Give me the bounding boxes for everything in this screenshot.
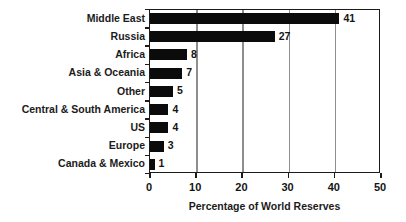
bar	[150, 104, 168, 115]
category-label: Canada & Mexico	[0, 157, 145, 170]
bar-row: 3	[150, 138, 379, 156]
bar	[150, 31, 275, 42]
bar-value-label: 7	[186, 66, 192, 79]
category-label: Other	[0, 85, 145, 98]
bar	[150, 141, 164, 152]
bar-value-label: 1	[159, 157, 165, 170]
bar	[150, 122, 168, 133]
category-label: Africa	[0, 48, 145, 61]
category-tick	[145, 82, 150, 83]
category-label: Russia	[0, 30, 145, 43]
x-axis-tick-10	[195, 173, 197, 178]
bar	[150, 49, 187, 60]
bar-row: 27	[150, 28, 379, 46]
bar-row: 4	[150, 101, 379, 119]
x-axis-tick-label: 50	[365, 180, 395, 194]
bar	[150, 13, 339, 24]
x-axis-tick-label: 0	[134, 180, 164, 194]
category-label: Asia & Oceania	[0, 66, 145, 79]
bar-row: 4	[150, 119, 379, 137]
category-tick	[145, 9, 150, 10]
category-label: Central & South America	[0, 103, 145, 116]
category-label: Middle East	[0, 12, 145, 25]
bar-value-label: 4	[172, 121, 178, 134]
bar-row: 8	[150, 46, 379, 64]
bar-value-label: 4	[172, 103, 178, 116]
bar	[150, 159, 155, 170]
x-axis-tick-50	[380, 173, 382, 178]
x-axis-tick-label: 20	[226, 180, 256, 194]
x-axis-title: Percentage of World Reserves	[149, 200, 380, 212]
x-axis-tick-label: 30	[273, 180, 303, 194]
bar-chart: 41278754431 Middle EastRussiaAfricaAsia …	[0, 0, 406, 222]
bar	[150, 68, 182, 79]
bar-value-label: 41	[343, 12, 355, 25]
category-tick	[145, 100, 150, 101]
bar-value-label: 27	[279, 30, 291, 43]
category-tick	[145, 155, 150, 156]
x-axis-tick-40	[334, 173, 336, 178]
category-tick	[145, 27, 150, 28]
x-axis-tick-20	[241, 173, 243, 178]
chart-screenshot: 41278754431 Middle EastRussiaAfricaAsia …	[0, 0, 406, 222]
bar	[150, 86, 173, 97]
category-tick	[145, 45, 150, 46]
category-label: US	[0, 121, 145, 134]
category-label: Europe	[0, 139, 145, 152]
bar-value-label: 8	[191, 48, 197, 61]
x-axis-tick-label: 10	[180, 180, 210, 194]
bar-value-label: 5	[177, 84, 183, 97]
bar-value-label: 3	[168, 139, 174, 152]
plot-area: 41278754431	[149, 9, 380, 173]
bar-row: 41	[150, 10, 379, 28]
category-tick	[145, 118, 150, 119]
x-axis-tick-30	[288, 173, 290, 178]
bar-row: 7	[150, 65, 379, 83]
category-tick	[145, 137, 150, 138]
x-axis-tick-0	[149, 173, 151, 178]
bar-row: 5	[150, 83, 379, 101]
category-tick	[145, 64, 150, 65]
x-axis-tick-label: 40	[319, 180, 349, 194]
bar-row: 1	[150, 156, 379, 174]
